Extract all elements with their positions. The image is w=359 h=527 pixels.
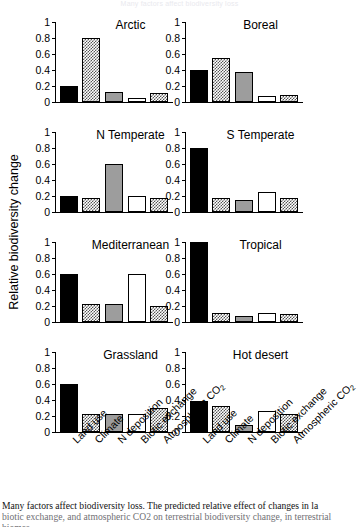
y-tick-label: 0.4 [165, 285, 180, 296]
y-axis [55, 352, 56, 432]
y-tick [52, 322, 55, 323]
bar [190, 148, 208, 212]
y-tick [182, 196, 185, 197]
panel-title: Tropical [218, 238, 303, 252]
y-tick [182, 242, 185, 243]
y-tick [182, 180, 185, 181]
y-tick [182, 54, 185, 55]
y-tick-label: 1 [44, 237, 50, 248]
y-tick-label: 0.2 [35, 191, 50, 202]
y-tick [182, 368, 185, 369]
y-tick-label: 0.4 [35, 175, 50, 186]
y-tick-label: 0.8 [35, 253, 50, 264]
bar [60, 86, 78, 102]
panel-mediterranean: 00.20.40.60.81Mediterranean [55, 242, 173, 322]
y-tick-label: 0.4 [165, 175, 180, 186]
y-tick-label: 0.2 [35, 301, 50, 312]
bar [280, 95, 298, 102]
bar [190, 70, 208, 102]
y-tick-label: 0.2 [165, 81, 180, 92]
bar [212, 313, 230, 322]
y-tick-label: 0.6 [165, 269, 180, 280]
y-tick-label: 0.6 [165, 49, 180, 60]
y-tick-label: 0 [44, 207, 50, 218]
bar [105, 92, 123, 102]
y-axis-label: Relative biodiversity change [7, 132, 21, 332]
y-tick [182, 38, 185, 39]
panel-title: N Temperate [88, 128, 173, 142]
panel-title: Hot desert [218, 348, 303, 362]
caption-line-2: biotic exchange, and atmospheric CO2 on … [2, 511, 359, 527]
y-tick [182, 432, 185, 433]
panel-title: Arctic [88, 18, 173, 32]
bar [235, 200, 253, 212]
bar [60, 196, 78, 212]
figure-caption: Many factors affect biodiversity loss. T… [2, 500, 359, 527]
y-tick [182, 322, 185, 323]
y-tick [52, 38, 55, 39]
y-tick-label: 0.4 [35, 285, 50, 296]
panel-boreal: 00.20.40.60.81Boreal [185, 22, 303, 102]
y-tick [52, 432, 55, 433]
y-tick [52, 196, 55, 197]
x-axis [55, 212, 173, 213]
y-tick-label: 0 [44, 317, 50, 328]
y-tick-label: 0.8 [165, 253, 180, 264]
y-tick [52, 368, 55, 369]
bar [190, 242, 208, 322]
y-tick [52, 258, 55, 259]
y-tick-label: 1 [44, 127, 50, 138]
bar [60, 384, 78, 432]
bar [235, 316, 253, 322]
bar [235, 72, 253, 102]
bar [280, 314, 298, 322]
y-tick [52, 384, 55, 385]
y-tick [182, 86, 185, 87]
y-tick [52, 164, 55, 165]
bar [60, 274, 78, 322]
y-tick-label: 0.6 [35, 379, 50, 390]
bar [128, 98, 146, 102]
bar [105, 304, 123, 322]
y-tick-label: 0.2 [35, 81, 50, 92]
y-tick-label: 0.2 [165, 301, 180, 312]
bar [82, 38, 100, 102]
y-tick [182, 384, 185, 385]
y-tick-label: 0.2 [35, 411, 50, 422]
y-tick-label: 0.4 [35, 65, 50, 76]
y-axis [55, 132, 56, 212]
x-axis [55, 102, 173, 103]
y-tick [52, 54, 55, 55]
y-tick-label: 0.6 [35, 269, 50, 280]
y-tick-label: 0.6 [35, 49, 50, 60]
y-axis [185, 22, 186, 102]
y-axis [185, 242, 186, 322]
bar [82, 198, 100, 212]
y-tick [52, 416, 55, 417]
y-tick [52, 306, 55, 307]
y-tick [52, 102, 55, 103]
y-tick [52, 132, 55, 133]
y-tick-label: 1 [174, 17, 180, 28]
figure-top-title: Many factors affect biodiversity loss [0, 0, 359, 9]
y-tick [182, 70, 185, 71]
y-tick [52, 242, 55, 243]
y-tick [182, 352, 185, 353]
y-tick-label: 0.8 [165, 363, 180, 374]
y-tick-label: 1 [44, 17, 50, 28]
y-tick [182, 274, 185, 275]
x-axis [55, 322, 173, 323]
y-tick [182, 102, 185, 103]
y-axis [185, 132, 186, 212]
figure-canvas: Many factors affect biodiversity loss Re… [0, 0, 359, 527]
y-axis [55, 22, 56, 102]
y-tick [182, 290, 185, 291]
y-tick-label: 0.6 [165, 379, 180, 390]
y-axis [55, 242, 56, 322]
y-tick-label: 0 [174, 97, 180, 108]
y-tick-label: 0.8 [35, 33, 50, 44]
y-tick-label: 1 [174, 237, 180, 248]
bar [150, 93, 168, 102]
bar [258, 96, 276, 102]
bar [212, 198, 230, 212]
